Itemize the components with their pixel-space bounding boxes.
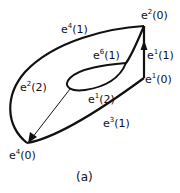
figure-caption: (a): [76, 170, 93, 184]
label-e2-2: e2(2): [20, 82, 47, 94]
edge-e2-2: [32, 89, 70, 138]
label-e1-1: e1(1): [147, 50, 174, 62]
inner-loop-e1-2: [67, 63, 126, 90]
label-e1-0: e1(0): [145, 74, 172, 86]
label-e4-1: e4(1): [61, 24, 88, 36]
label-e1-2: e1(2): [88, 94, 115, 106]
label-e4-0: e4(0): [9, 150, 36, 162]
label-e6-1: e6(1): [93, 50, 120, 62]
edge-e6-1: [126, 26, 144, 63]
label-e2-0: e2(0): [141, 10, 168, 22]
label-e3-1: e3(1): [103, 118, 130, 130]
